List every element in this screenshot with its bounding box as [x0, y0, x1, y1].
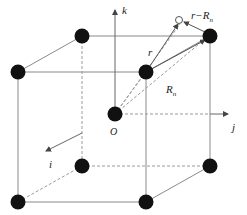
axis-label-k: k	[122, 5, 127, 16]
axis-label-j: j	[232, 122, 235, 133]
axis-label-i: i	[49, 159, 52, 170]
lattice-diagram: k j i O r Rn r−Rn	[0, 0, 247, 215]
vector-label-rn: Rn	[166, 84, 176, 98]
vector-label-r-minus-rn: r−Rn	[191, 10, 213, 24]
vector-label-r: r	[148, 47, 152, 58]
origin-label: O	[110, 127, 117, 137]
lattice-graphic	[0, 0, 247, 215]
atoms	[11, 29, 218, 210]
axes	[46, 10, 228, 151]
position-point-icon	[176, 17, 183, 24]
